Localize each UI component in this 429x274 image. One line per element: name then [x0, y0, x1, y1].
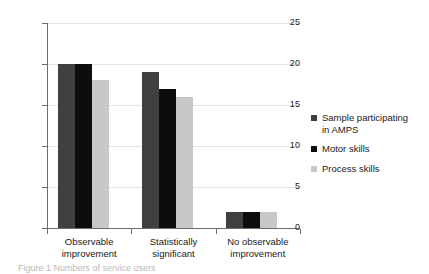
- x-axis-label-line: improvement: [208, 248, 308, 260]
- y-tick-label-10: 10: [262, 141, 300, 150]
- legend-swatch-icon-3: [311, 166, 317, 172]
- legend-swatch-icon-2: [311, 146, 317, 152]
- y-tick-label-25: 25: [262, 18, 300, 27]
- legend-label-1: Sample participatingin AMPS: [322, 112, 408, 135]
- x-tick-mark-1: [131, 229, 132, 234]
- legend-swatch-icon-1: [311, 115, 317, 121]
- bar-2-1: [142, 72, 159, 228]
- bar-1-3: [92, 80, 109, 228]
- bar-3-2: [243, 212, 260, 228]
- x-tick-mark-3: [300, 229, 301, 234]
- bar-2-2: [159, 89, 176, 228]
- y-axis-line: [47, 23, 48, 229]
- bar-2-3: [176, 97, 193, 228]
- chart-legend: Sample participatingin AMPSMotor skillsP…: [311, 112, 429, 182]
- x-axis-label-3: No observableimprovement: [208, 236, 308, 259]
- legend-item-3[interactable]: Process skills: [311, 163, 429, 175]
- y-tick-mark-5: [42, 187, 47, 188]
- figure-caption: Figure 1 Numbers of service users: [18, 263, 156, 274]
- bar-1-2: [75, 64, 92, 228]
- y-tick-mark-20: [42, 64, 47, 65]
- y-tick-mark-25: [42, 23, 47, 24]
- y-tick-label-15: 15: [262, 100, 300, 109]
- legend-item-2[interactable]: Motor skills: [311, 143, 429, 155]
- x-tick-mark-2: [216, 229, 217, 234]
- figure: 0510152025 ObservableimprovementStatisti…: [0, 0, 429, 274]
- y-tick-label-0: 0: [262, 223, 300, 232]
- x-axis-label-line: No observable: [208, 236, 308, 248]
- legend-item-1[interactable]: Sample participatingin AMPS: [311, 112, 429, 135]
- bar-1-1: [58, 64, 75, 228]
- y-tick-label-20: 20: [262, 59, 300, 68]
- bar-chart-plot-area: 0510152025 ObservableimprovementStatisti…: [0, 0, 300, 240]
- legend-label-2: Motor skills: [322, 143, 370, 155]
- x-tick-mark-0: [47, 229, 48, 234]
- y-tick-mark-15: [42, 105, 47, 106]
- y-tick-mark-10: [42, 146, 47, 147]
- legend-label-3: Process skills: [322, 163, 380, 175]
- y-tick-label-5: 5: [262, 182, 300, 191]
- bar-3-1: [226, 212, 243, 228]
